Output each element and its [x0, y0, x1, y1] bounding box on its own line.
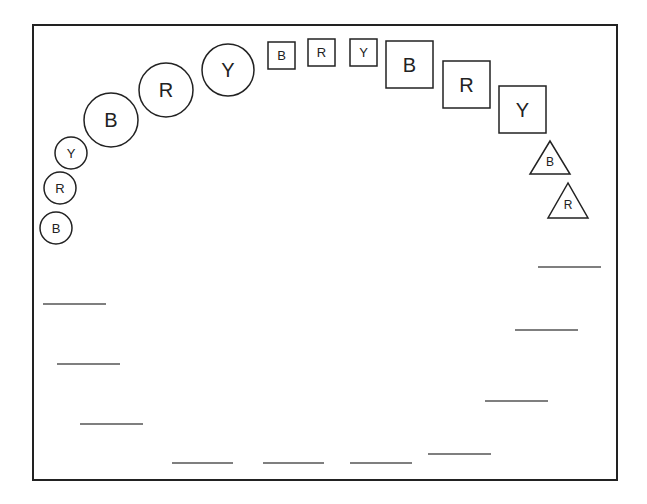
large-square-y: Y [499, 86, 546, 133]
pattern-diagram: YRB BRY BRY BRY BR [0, 0, 647, 504]
large-square-group: BRY [386, 41, 546, 133]
large-circle-y: Y [202, 44, 254, 96]
shape-label: B [104, 109, 117, 131]
shape-label: Y [221, 59, 234, 81]
small-circle-r: R [44, 172, 76, 204]
shape-label: Y [67, 146, 76, 161]
shape-label: B [52, 221, 61, 236]
shape-label: R [564, 198, 573, 212]
shape-label: R [159, 79, 173, 101]
diagram-frame [33, 25, 617, 480]
answer-blank-group [43, 267, 601, 463]
diagram-canvas: YRB BRY BRY BRY BR [0, 0, 647, 504]
shape-label: Y [359, 45, 368, 60]
triangle-group: BR [530, 141, 588, 218]
small-circle-y: Y [55, 137, 87, 169]
small-square-y: Y [350, 39, 377, 66]
small-circle-b: B [40, 212, 72, 244]
large-square-b: B [386, 41, 433, 88]
large-circle-r: R [139, 63, 193, 117]
large-circle-group: BRY [84, 44, 254, 147]
small-square-b: B [268, 42, 295, 69]
shape-label: B [546, 155, 554, 169]
small-square-group: BRY [268, 39, 377, 69]
shape-label: R [317, 45, 326, 60]
shape-label: B [403, 54, 416, 76]
large-circle-b: B [84, 93, 138, 147]
triangle-r: R [548, 183, 588, 218]
shape-label: Y [516, 99, 529, 121]
small-circle-group: YRB [40, 137, 87, 244]
shape-label: R [459, 74, 473, 96]
shape-label: B [277, 48, 286, 63]
shape-label: R [55, 181, 64, 196]
triangle-b: B [530, 141, 570, 174]
small-square-r: R [308, 39, 335, 66]
large-square-r: R [443, 61, 490, 108]
